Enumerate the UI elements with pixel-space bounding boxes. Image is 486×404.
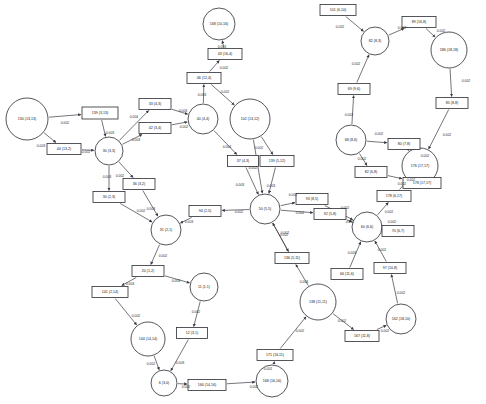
node-label: 178 (17,17): [413, 181, 431, 185]
graph-node[interactable]: 20 (1,2): [132, 266, 164, 277]
edge-weight-label: 0.003: [236, 183, 245, 187]
edge-weight-label: 0.002: [336, 25, 345, 29]
node-label: 68 (8,6): [345, 138, 357, 142]
node-label: 31 (2,1): [160, 228, 172, 232]
graph-node[interactable]: 178 (6,17): [377, 191, 411, 202]
graph-node[interactable]: 11 (1,1): [190, 273, 218, 301]
graph-node[interactable]: 168 (10,16): [203, 8, 235, 40]
graph-node[interactable]: 42 (3,4): [139, 123, 171, 134]
edge-weight-label: 0.003: [179, 109, 188, 113]
graph-node[interactable]: 141 (2,14): [92, 287, 128, 298]
graph-node[interactable]: 37 (4,3): [228, 156, 259, 167]
graph-node[interactable]: 130 (13,13): [6, 98, 48, 140]
graph-node[interactable]: 82 (6,8): [355, 167, 387, 178]
graph-node[interactable]: 30 (2,3): [93, 192, 125, 203]
edge-weight-label: 0.003: [172, 279, 181, 283]
graph-node[interactable]: 82 (8,3): [361, 27, 389, 55]
graph-node[interactable]: 70 (6,7): [382, 226, 414, 237]
graph-node[interactable]: 60 (6,6): [352, 212, 382, 242]
edge-weight-label: 0.002: [378, 248, 387, 252]
node-label: 46 (12,4): [197, 76, 211, 80]
node-label: 139 (3,13): [92, 111, 108, 115]
graph-node[interactable]: 162 (18,10): [386, 304, 416, 334]
graph-node[interactable]: 102 (13,12): [230, 99, 270, 139]
graph-node[interactable]: 69 (9,6): [338, 84, 370, 95]
edge-weight-label: 0.002: [358, 157, 367, 161]
graph-node[interactable]: 80 (7,8): [388, 139, 420, 150]
edge-weight-label: 0.002: [249, 166, 258, 170]
graph-node[interactable]: 93 (8,5): [296, 194, 328, 205]
node-label: 166 (14,16): [198, 383, 216, 387]
graph-edge: [246, 168, 258, 195]
graph-node[interactable]: 138 (11,11): [300, 284, 336, 320]
graph-node[interactable]: 166 (14,16): [188, 380, 226, 391]
edge-weight-label: 0.002: [443, 133, 452, 137]
edge-weight-label: 0.002: [407, 178, 416, 182]
graph-node[interactable]: 167 (11,8): [345, 331, 379, 342]
node-label: 141 (2,14): [102, 290, 118, 294]
graph-node[interactable]: 186 (18,18): [431, 32, 467, 68]
edge-weight-label: 0.004: [130, 115, 139, 119]
node-label: 6 (3,0): [159, 381, 169, 385]
graph-node[interactable]: 31 (2,1): [151, 215, 181, 245]
node-label: 85 (8,8): [446, 101, 458, 105]
edge-weight-label: 0.002: [397, 291, 406, 295]
edge-weight-label: 0.002: [137, 209, 146, 213]
graph-node[interactable]: 85 (8,8): [436, 98, 468, 109]
edge-weight-label: 0.003: [185, 220, 194, 224]
graph-node[interactable]: 43 (16,4): [208, 49, 242, 60]
graph-node[interactable]: 92 (5,8): [314, 209, 346, 220]
graph-node[interactable]: 68 (8,6): [336, 125, 366, 155]
graph-node[interactable]: 139 (3,13): [82, 107, 118, 119]
graph-node[interactable]: 40 (4,4): [188, 104, 218, 134]
graph-edge: [227, 382, 255, 384]
edge-weight-label: 0.003: [37, 144, 46, 148]
edge-weight-label: 0.003: [198, 93, 207, 97]
graph-node[interactable]: 46 (12,4): [187, 73, 221, 84]
edge-weight-label: 0.002: [388, 220, 397, 224]
edge-weight-label: 0.002: [375, 132, 384, 136]
node-label: 44 (13,2): [57, 147, 71, 151]
graph-edge: [426, 29, 435, 38]
graph-node[interactable]: 101 (6,10): [320, 5, 356, 16]
node-label: 92 (5,8): [324, 212, 336, 216]
node-label: 82 (8,3): [369, 39, 381, 43]
graph-edge: [450, 69, 452, 97]
graph-node[interactable]: 136 (5,11): [275, 253, 309, 264]
edge-weight-label: 0.002: [398, 182, 407, 186]
graph-node[interactable]: 30 (3,3): [95, 137, 123, 165]
node-label: 130 (13,13): [18, 117, 36, 121]
edge-weight-label: 0.002: [289, 193, 298, 197]
node-label: 168 (16,16): [263, 379, 281, 383]
graph-edge: [171, 340, 189, 371]
node-label: 42 (3,4): [149, 126, 161, 130]
node-label: 50 (5,5): [259, 207, 271, 211]
graph-node[interactable]: 139 (5,12): [260, 156, 294, 167]
edge-weight-label: 0.002: [346, 220, 355, 224]
edge-weight-label: 0.003: [176, 361, 185, 365]
graph-node[interactable]: 12 (3,1): [177, 328, 208, 339]
graph-node[interactable]: 6 (3,0): [151, 370, 177, 396]
graph-edge: [352, 96, 354, 125]
node-label: 101 (6,10): [330, 8, 346, 12]
edge-weight-label: 0.002: [220, 66, 229, 70]
graph-node[interactable]: 50 (5,5): [250, 194, 280, 224]
graph-edge: [273, 223, 289, 251]
node-label: 43 (16,4): [218, 52, 232, 56]
graph-node[interactable]: 89 (16,8): [402, 17, 436, 28]
graph-node[interactable]: 144 (14,14): [131, 322, 165, 356]
edge-weight-label: 0.002: [398, 26, 407, 30]
graph-node[interactable]: 33 (4,3): [139, 99, 171, 110]
graph-node[interactable]: 171 (16,11): [257, 350, 293, 361]
graph-node[interactable]: 44 (13,2): [47, 144, 81, 155]
node-label: 33 (4,3): [149, 102, 161, 106]
node-label: 136 (5,11): [284, 256, 300, 260]
edge-weight-label: 0.002: [250, 385, 259, 389]
edge-weight-label: 0.002: [182, 385, 191, 389]
graph-node[interactable]: 36 (3,2): [123, 179, 155, 190]
graph-node[interactable]: 94 (2,5): [189, 206, 221, 217]
edge-weight-label: 0.003: [147, 207, 156, 211]
graph-node[interactable]: 66 (11,6): [331, 269, 363, 280]
node-label: 102 (13,12): [241, 117, 259, 121]
graph-node[interactable]: 97 (10,8): [374, 263, 406, 274]
